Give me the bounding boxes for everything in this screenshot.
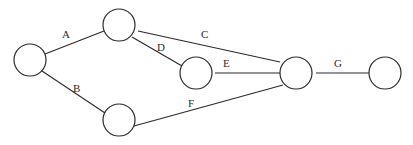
edge-label-a: A [62, 28, 70, 40]
edge-label-c: C [201, 28, 208, 40]
edge-a [45, 31, 104, 54]
node-n3 [180, 57, 212, 89]
node-n5 [280, 57, 312, 89]
edge-label-g: G [334, 57, 342, 69]
edge-label-d: D [157, 41, 165, 53]
edge-f [134, 85, 283, 126]
edge-label-f: F [188, 97, 194, 109]
network-diagram: A B C D E F G [0, 0, 413, 145]
edge-label-b: B [73, 82, 80, 94]
node-n4 [103, 104, 135, 136]
node-n6 [369, 57, 401, 89]
node-n2 [103, 9, 135, 41]
node-n1 [14, 44, 46, 76]
edge-label-e: E [223, 57, 230, 69]
